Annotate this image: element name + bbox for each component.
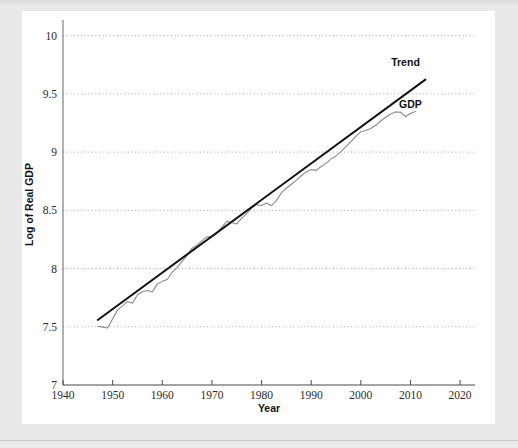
gridlines-group xyxy=(63,36,475,327)
y-tick-label-8.5: 8.5 xyxy=(43,204,58,216)
y-tick-labels-group: 77.588.599.510 xyxy=(43,30,58,391)
y-tick-label-9: 9 xyxy=(51,146,57,158)
x-tick-label-1970: 1970 xyxy=(200,389,223,401)
x-tick-marks-group xyxy=(63,380,460,385)
x-tick-label-1980: 1980 xyxy=(250,389,273,401)
x-tick-label-2000: 2000 xyxy=(349,389,372,401)
x-tick-labels-group: 194019501960197019801990200020102020 xyxy=(52,389,472,401)
y-tick-label-10: 10 xyxy=(46,30,58,42)
chart-svg: 194019501960197019801990200020102020 77.… xyxy=(0,0,518,448)
y-tick-label-9.5: 9.5 xyxy=(43,88,58,100)
x-axis-title: Year xyxy=(258,402,280,414)
x-tick-label-2010: 2010 xyxy=(399,389,422,401)
gdp-label: GDP xyxy=(399,98,422,110)
series-line-gdp xyxy=(98,112,416,328)
series-line-trend xyxy=(98,80,426,320)
x-tick-label-1990: 1990 xyxy=(300,389,323,401)
data-series-group xyxy=(98,80,426,328)
x-tick-label-1950: 1950 xyxy=(101,389,124,401)
trend-label: Trend xyxy=(391,56,420,68)
gdp-trend-chart: 194019501960197019801990200020102020 77.… xyxy=(0,0,518,448)
y-axis-title: Log of Real GDP xyxy=(23,163,35,246)
x-tick-label-2020: 2020 xyxy=(449,389,472,401)
x-tick-label-1960: 1960 xyxy=(151,389,174,401)
y-tick-label-7.5: 7.5 xyxy=(43,321,58,333)
axes-group xyxy=(63,20,475,385)
y-tick-label-7: 7 xyxy=(51,379,57,391)
y-tick-label-8: 8 xyxy=(51,263,57,275)
